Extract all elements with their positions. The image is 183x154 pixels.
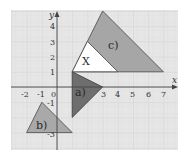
triangle-b-label: b) <box>36 119 47 132</box>
x-tick-label: 5 <box>130 90 135 99</box>
x-tick-label: 4 <box>115 90 120 99</box>
y-tick-label: 4 <box>50 22 55 31</box>
x-tick-label: -1 <box>37 90 45 99</box>
triangle-a-label: a) <box>75 86 86 99</box>
x-tick-label: -2 <box>21 90 29 99</box>
coordinate-diagram: x y -2 -1 0 3 4 5 6 7 4 3 2 1 -1 -3 X c)… <box>0 0 183 154</box>
x-tick-label: 0 <box>51 90 56 99</box>
x-tick-label: 3 <box>101 90 106 99</box>
x-tick-label: 6 <box>146 90 151 99</box>
y-tick-label: 3 <box>50 38 55 47</box>
y-tick-label: -3 <box>47 130 55 139</box>
triangle-c-label: c) <box>108 39 118 52</box>
x-tick-label: 7 <box>161 90 166 99</box>
y-axis-label: y <box>48 10 55 20</box>
y-tick-label: 1 <box>50 68 55 77</box>
triangle-x-label: X <box>82 55 90 68</box>
y-tick-label: -1 <box>47 99 55 108</box>
y-tick-label: 2 <box>50 53 55 62</box>
x-axis-label: x <box>172 75 177 85</box>
